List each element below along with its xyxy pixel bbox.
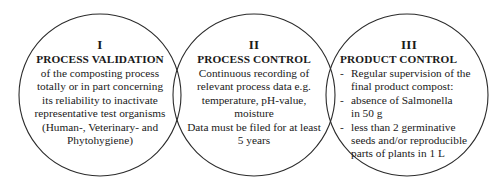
circle-2-line: 5 years xyxy=(174,134,334,147)
bullet-text: absence of Salmonella xyxy=(351,94,490,107)
circle-3-numeral: III xyxy=(328,38,490,52)
bullet-item: - less than 2 germinative xyxy=(340,121,490,134)
circle-2-numeral: II xyxy=(174,38,334,52)
circle-1-heading: PROCESS VALIDATION xyxy=(20,53,180,66)
bullet-dash-icon: - xyxy=(340,67,351,80)
circle-1-line: its reliability to inactivate xyxy=(20,94,180,107)
bullet-dash-icon: - xyxy=(340,121,351,134)
circle-1-line: Phytohygiene) xyxy=(20,134,180,147)
circle-3-heading: PRODUCT CONTROL xyxy=(328,53,490,66)
circle-3-content: III PRODUCT CONTROL - Regular supervisio… xyxy=(328,38,490,161)
circle-1-line: (Human-, Veterinary- and xyxy=(20,121,180,134)
bullet-text-continuation: final product compost: xyxy=(340,80,490,93)
circle-1-numeral: I xyxy=(20,38,180,52)
circle-2-line: relevant process data e.g. xyxy=(174,80,334,93)
circle-2-line: Data must be filed for at least xyxy=(174,121,334,134)
bullet-text: Regular supervision of the xyxy=(351,67,490,80)
bullet-item: - absence of Salmonella xyxy=(340,94,490,107)
circle-2-heading: PROCESS CONTROL xyxy=(174,53,334,66)
bullet-dash-icon: - xyxy=(340,94,351,107)
circle-1-body: of the composting process totally or in … xyxy=(20,67,180,147)
circle-2-line: moisture xyxy=(174,107,334,120)
bullet-text-continuation: seeds and/or reproducible xyxy=(340,134,490,147)
circle-2-body: Continuous recording of relevant process… xyxy=(174,67,334,147)
circle-2-line: temperature, pH-value, xyxy=(174,94,334,107)
circle-2-content: II PROCESS CONTROL Continuous recording … xyxy=(174,38,334,147)
circle-1-line: of the composting process xyxy=(20,67,180,80)
circle-1-content: I PROCESS VALIDATION of the composting p… xyxy=(20,38,180,147)
circle-3-bullet-list: - Regular supervision of the final produ… xyxy=(328,67,490,161)
bullet-text-continuation: in 50 g xyxy=(340,107,490,120)
circle-1-line: totally or in part concerning xyxy=(20,80,180,93)
venn-diagram: I PROCESS VALIDATION of the composting p… xyxy=(0,0,500,190)
bullet-text-continuation: parts of plants in 1 L xyxy=(340,147,490,160)
circle-1-line: representative test organisms xyxy=(20,107,180,120)
bullet-text: less than 2 germinative xyxy=(351,121,490,134)
bullet-item: - Regular supervision of the xyxy=(340,67,490,80)
circle-2-line: Continuous recording of xyxy=(174,67,334,80)
